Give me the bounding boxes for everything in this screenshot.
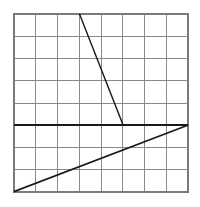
grid-line-graph-figure: A bold horizontal line crosses the grid … [0,0,200,207]
plot-canvas [0,0,200,207]
